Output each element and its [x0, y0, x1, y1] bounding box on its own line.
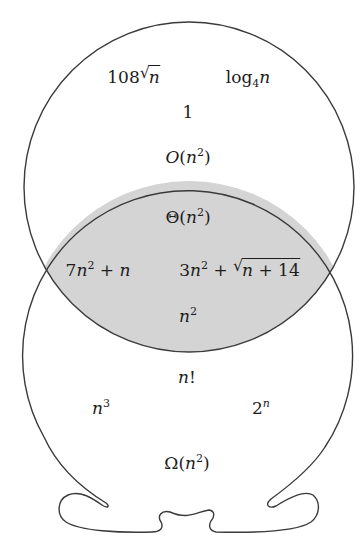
var: n	[185, 453, 196, 473]
label-big-o: O(n2)	[165, 149, 210, 166]
exp: 2	[201, 259, 208, 272]
paren: (	[179, 207, 186, 227]
paren: )	[203, 453, 210, 473]
sym: O	[165, 147, 179, 167]
label-2-to-n: 2n	[252, 400, 270, 417]
value: 1	[183, 102, 194, 122]
label-big-theta: Θ(n2)	[165, 209, 210, 226]
exp: 2	[87, 259, 94, 272]
label-constant-1: 1	[183, 104, 194, 121]
label-log4-n: log4n	[226, 69, 271, 86]
paren: )	[204, 207, 211, 227]
paren: (	[178, 453, 185, 473]
label-n-factorial: n!	[178, 369, 196, 386]
exp: 2	[190, 305, 197, 318]
var: n	[179, 306, 190, 326]
var: n	[178, 367, 189, 387]
sqrt: √n + 14	[233, 260, 301, 280]
exp: 2	[196, 452, 203, 465]
coef: 7	[66, 260, 77, 280]
label-7n2-plus-n: 7n2 + n	[66, 262, 131, 279]
var: n	[190, 260, 201, 280]
exp: 2	[197, 146, 204, 159]
op: +	[94, 260, 119, 280]
paren: )	[204, 147, 211, 167]
var: n	[76, 260, 87, 280]
op: +	[208, 260, 233, 280]
bang: !	[189, 367, 196, 387]
rest: + 14	[253, 260, 300, 280]
label-n-squared: n2	[179, 308, 197, 325]
venn-diagram: 108√n log4n 1 O(n2) Θ(n2) 7n2 + n 3n2 + …	[0, 0, 360, 554]
label-n-cubed: n3	[92, 400, 110, 417]
exp: 2	[197, 206, 204, 219]
paren: (	[179, 147, 186, 167]
var: n	[242, 260, 253, 280]
var: n	[186, 147, 197, 167]
sym: Θ	[165, 207, 179, 227]
var: n	[149, 67, 160, 87]
base: 2	[252, 398, 263, 418]
var: n	[186, 207, 197, 227]
sym: Ω	[164, 453, 178, 473]
coef: 108	[107, 67, 139, 87]
exp: 3	[103, 397, 110, 410]
label-108-sqrt-n: 108√n	[107, 69, 160, 86]
label-big-omega: Ω(n2)	[164, 455, 209, 472]
coef: 3	[179, 260, 190, 280]
sqrt: √n	[140, 67, 161, 87]
var: n	[259, 67, 270, 87]
label-3n2-plus-sqrt: 3n2 + √n + 14	[179, 262, 300, 279]
var: n	[119, 260, 130, 280]
fn: log	[226, 67, 253, 87]
exp: n	[263, 397, 270, 410]
sub: 4	[252, 77, 259, 90]
var: n	[92, 398, 103, 418]
